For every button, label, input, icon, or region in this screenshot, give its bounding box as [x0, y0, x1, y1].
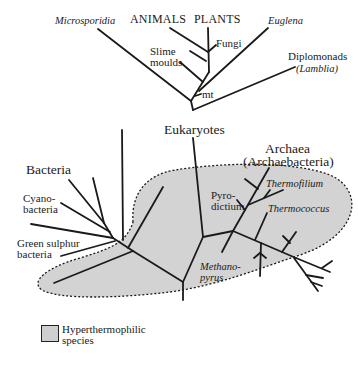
label-methanopyrus-1: Methano- — [200, 261, 241, 272]
label-eukaryotes: Eukaryotes — [164, 123, 225, 137]
label-green-sulphur-2: bacteria — [17, 249, 52, 260]
legend-label-2: species — [62, 335, 94, 346]
label-thermofilium: Thermofilium — [266, 178, 323, 189]
label-diplomonads: Diplomonads — [288, 51, 347, 62]
branch-plants — [208, 28, 209, 72]
branch-slime-2 — [180, 62, 203, 82]
label-methanopyrus-2: pyrus — [200, 272, 223, 283]
branch-bacteria-vertical — [122, 130, 123, 240]
legend-swatch-hyperthermophilic — [41, 325, 59, 342]
branch-bacteria-join — [104, 223, 113, 238]
branch-euk-base — [191, 101, 193, 110]
label-fungi: Fungi — [216, 38, 242, 49]
label-pyrodictium-2: dictium — [211, 201, 245, 212]
label-slime-moulds-2: moulds — [150, 57, 182, 68]
label-thermococcus: Thermococcus — [268, 203, 329, 214]
label-lamblia: (Lamblia) — [296, 63, 338, 74]
label-plants: PLANTS — [194, 14, 241, 25]
label-bacteria: Bacteria — [26, 163, 71, 177]
label-animals: ANIMALS — [130, 14, 186, 25]
label-mt: mt — [202, 89, 214, 100]
label-cyanobacteria-2: bacteria — [23, 204, 58, 215]
label-microsporidia: Microsporidia — [55, 15, 115, 26]
branch-archaea-sub2 — [260, 243, 261, 276]
branch-archaea-out-a — [322, 261, 332, 268]
label-euglena: Euglena — [268, 15, 303, 26]
branch-slime-1 — [190, 51, 206, 61]
label-archaebacteria: (Archaebacteria) — [243, 155, 334, 169]
